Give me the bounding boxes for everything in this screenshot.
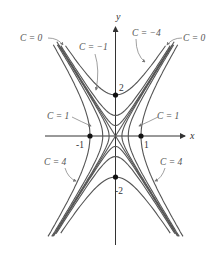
level-curve-diagram: y x 2 -2 -1 1 C = 0 C = −1 C = −4 C = 0 … xyxy=(0,0,219,259)
point-y-2 xyxy=(113,92,118,97)
tick-y-neg2: -2 xyxy=(115,186,123,196)
point-x-1 xyxy=(138,133,143,138)
tick-x-neg1: -1 xyxy=(76,140,84,150)
label-cm1: C = −1 xyxy=(79,42,108,52)
label-c1-right: C = 1 xyxy=(157,111,179,121)
point-x-neg1 xyxy=(87,133,92,138)
tick-y-2: 2 xyxy=(119,83,124,93)
label-c0-left: C = 0 xyxy=(20,33,42,43)
tick-x-1: 1 xyxy=(144,140,149,150)
y-axis-label: y xyxy=(115,11,121,22)
label-c0-right: C = 0 xyxy=(183,33,205,43)
x-axis-label: x xyxy=(189,130,195,141)
label-cm4: C = −4 xyxy=(132,28,161,38)
label-c1-left: C = 1 xyxy=(47,111,69,121)
label-c4-right: C = 4 xyxy=(160,157,182,167)
point-y-neg2 xyxy=(113,174,118,179)
label-c4-left: C = 4 xyxy=(44,157,66,167)
